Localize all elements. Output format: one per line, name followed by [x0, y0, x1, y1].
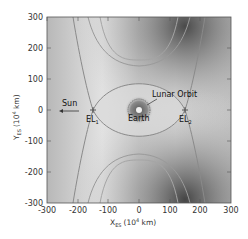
lunar-orbit-label: Lunar Orbit [152, 90, 197, 99]
svg-text:300: 300 [223, 206, 238, 215]
svg-text:200: 200 [28, 44, 43, 53]
plot-area [47, 17, 231, 203]
x-axis-title: XES(104 km) [110, 217, 156, 228]
earth-label: Earth [128, 114, 149, 123]
svg-text:-100: -100 [25, 137, 43, 146]
svg-text:300: 300 [28, 13, 43, 22]
sun-label: Sun [62, 99, 77, 108]
earth-marker [136, 107, 142, 113]
chart-canvas: 300 200 100 0 -100 -200 -300 -300 -200 -… [0, 0, 248, 239]
svg-text:0: 0 [38, 106, 43, 115]
y-tick-labels: 300 200 100 0 -100 -200 -300 [25, 13, 43, 208]
svg-text:0: 0 [136, 206, 141, 215]
svg-text:200: 200 [192, 206, 207, 215]
svg-text:-100: -100 [99, 206, 117, 215]
svg-text:-200: -200 [25, 168, 43, 177]
y-axis-title: YES(104 km) [11, 94, 22, 141]
svg-text:-200: -200 [69, 206, 87, 215]
svg-text:100: 100 [162, 206, 177, 215]
svg-text:100: 100 [28, 75, 43, 84]
x-tick-labels: -300 -200 -100 0 100 200 300 [38, 206, 239, 215]
svg-text:-300: -300 [38, 206, 56, 215]
